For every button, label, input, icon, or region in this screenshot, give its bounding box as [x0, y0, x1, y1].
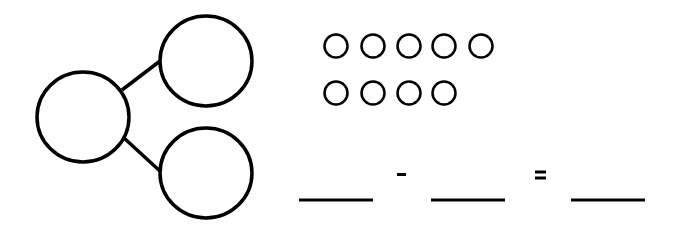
worksheet-canvas — [0, 0, 678, 227]
counter-circle — [470, 35, 493, 58]
bond-connector-bottom — [124, 138, 161, 172]
counter-circle — [362, 82, 385, 105]
bond-connector-top — [122, 61, 160, 90]
bond-whole-circle[interactable] — [37, 72, 129, 162]
bond-part-bottom-circle[interactable] — [160, 128, 252, 218]
counter-circle — [362, 35, 385, 58]
counter-circle — [433, 82, 456, 105]
counter-circle — [325, 82, 348, 105]
equation — [299, 172, 645, 200]
counter-circle — [433, 35, 456, 58]
number-bond — [37, 16, 252, 218]
counters — [325, 35, 493, 105]
counter-circle — [398, 82, 421, 105]
bond-part-top-circle[interactable] — [160, 16, 252, 106]
counter-circle — [398, 35, 421, 58]
counter-circle — [325, 35, 348, 58]
